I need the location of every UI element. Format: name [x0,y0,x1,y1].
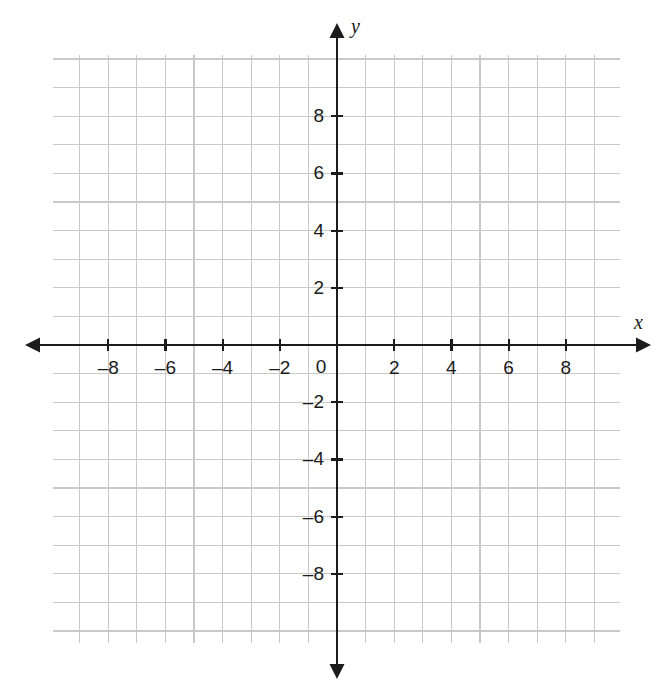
x-axis-tick-label: –6 [155,357,176,378]
y-axis-tick-label: 2 [313,277,324,298]
x-axis-tick-label: –4 [212,357,234,378]
x-axis-tick-label: –8 [98,357,119,378]
origin-label: 0 [316,356,327,377]
x-axis-tick-label: –2 [269,357,290,378]
y-axis-tick-label: –4 [303,448,325,469]
x-axis-tick-label: 8 [561,357,572,378]
x-axis-tick-label: 2 [389,357,400,378]
y-axis-tick-label: 4 [313,220,324,241]
coordinate-plane-svg: –8–6–4–22468 8642–2–4–6–8 0 x y [0,0,668,689]
y-axis-tick-label: 6 [313,162,324,183]
coordinate-plane: –8–6–4–22468 8642–2–4–6–8 0 x y [0,0,668,689]
x-axis-label: x [633,311,643,333]
y-axis-label: y [349,15,360,38]
y-axis-tick-label: –8 [303,563,324,584]
y-axis-tick-label: –2 [303,391,324,412]
x-axis-tick-label: 4 [446,357,457,378]
x-axis-tick-label: 6 [503,357,514,378]
y-axis-tick-label: 8 [313,105,324,126]
y-axis-tick-label: –6 [303,506,324,527]
